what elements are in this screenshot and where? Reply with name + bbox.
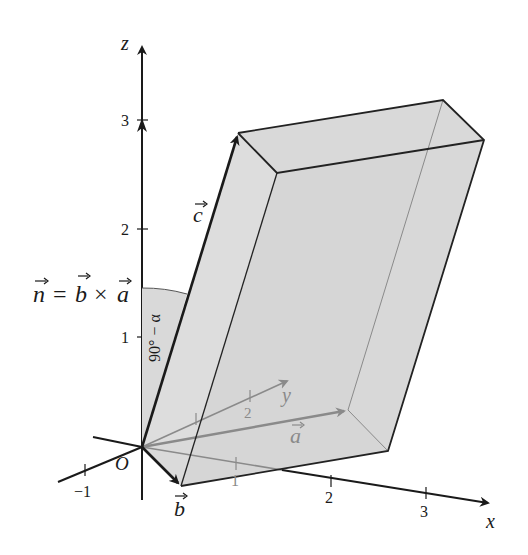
svg-text:×: × (94, 281, 108, 307)
z-tick-label-1: 1 (121, 329, 129, 346)
z-tick-label-2: 2 (121, 221, 129, 238)
z-tick-label-3: 3 (121, 112, 129, 129)
y-axis-negative (58, 447, 142, 482)
x-tick-label-2: 2 (325, 489, 333, 506)
vector-b-label: b (174, 493, 187, 521)
x-tick-label-1: 1 (231, 472, 239, 489)
y-axis-label: y (280, 384, 291, 407)
z-axis-label: z (120, 32, 129, 54)
normal-equation: n = b × a (33, 273, 131, 307)
vector-c-label: c (193, 201, 207, 227)
angle-label: 90° − α (146, 314, 163, 362)
parallelepiped-diagram: z 3 2 1 x 2 3 1 y 2 −1 O a b c n = b × a… (0, 0, 528, 555)
svg-text:=: = (53, 281, 67, 307)
x-axis (282, 470, 488, 503)
x-axis-negative (93, 437, 142, 447)
svg-text:b: b (174, 496, 185, 521)
svg-text:a: a (117, 281, 129, 307)
svg-text:b: b (75, 281, 87, 307)
y-tick-label-neg1: −1 (74, 483, 91, 500)
y-tick-label-2: 2 (244, 405, 252, 421)
svg-text:a: a (290, 423, 301, 448)
x-axis-label: x (485, 510, 495, 532)
svg-text:n: n (33, 281, 45, 307)
svg-text:c: c (193, 202, 203, 227)
x-tick-label-3: 3 (420, 503, 428, 520)
origin-label: O (115, 453, 129, 474)
